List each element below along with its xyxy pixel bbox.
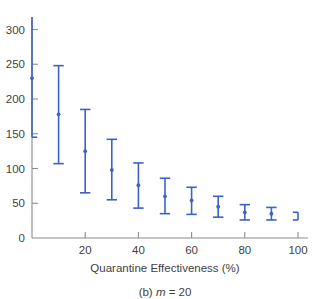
- data-point-marker: [163, 194, 167, 198]
- error-bar-point: [240, 205, 250, 220]
- data-point-marker: [30, 76, 34, 80]
- x-axis-title: Quarantine Effectiveness (%): [90, 262, 240, 274]
- error-bar-point: [186, 187, 196, 214]
- error-bar-point: [107, 139, 117, 199]
- error-bar-point: [53, 66, 63, 164]
- data-point-marker: [190, 199, 194, 203]
- y-axis-tick-label: 100: [6, 163, 25, 175]
- y-axis-tick-label: 200: [6, 93, 25, 105]
- error-bar-point: [293, 212, 298, 220]
- error-bar-point: [160, 178, 170, 213]
- error-bar-point: [213, 196, 223, 217]
- y-axis-tick-label: 150: [6, 128, 25, 140]
- data-point-marker: [216, 205, 220, 209]
- data-point-marker: [83, 149, 87, 153]
- axis-labels-layer: 05010015020025030020406080100Quarantine …: [6, 24, 308, 298]
- data-point-marker: [270, 212, 274, 216]
- y-axis-tick-label: 300: [6, 24, 25, 36]
- errorbar-chart: 05010015020025030020406080100Quarantine …: [0, 0, 317, 299]
- error-bar-point: [266, 207, 276, 220]
- x-axis-tick-label: 80: [238, 244, 251, 256]
- data-point-marker: [137, 183, 141, 187]
- data-point-marker: [57, 112, 61, 116]
- data-point-marker: [110, 168, 114, 172]
- x-axis-tick-label: 60: [185, 244, 198, 256]
- x-axis-tick-label: 100: [288, 244, 307, 256]
- error-bar-point: [80, 109, 90, 192]
- data-point-marker: [243, 210, 247, 214]
- x-axis-tick-label: 20: [79, 244, 92, 256]
- error-bar-series: [30, 17, 298, 220]
- error-bar-point: [30, 17, 37, 137]
- figure-container: 05010015020025030020406080100Quarantine …: [0, 0, 317, 299]
- axes-layer: [32, 17, 308, 238]
- y-axis-tick-label: 50: [12, 197, 25, 209]
- y-axis-tick-label: 250: [6, 58, 25, 70]
- error-bar-point: [133, 163, 143, 208]
- x-axis-tick-label: 40: [132, 244, 145, 256]
- figure-caption: (b) m = 20: [139, 286, 192, 298]
- y-axis-tick-label: 0: [19, 232, 25, 244]
